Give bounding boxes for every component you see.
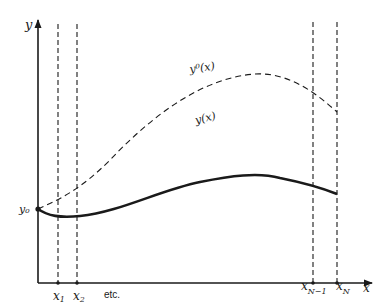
- grid-label-x1: x1: [53, 289, 65, 304]
- grid-label-x2: x2: [73, 289, 85, 304]
- grid-point-xN-1: [311, 281, 315, 285]
- curve-exact: [38, 175, 337, 217]
- grid-point-x2: [75, 281, 79, 285]
- svg-text:x2: x2: [73, 289, 85, 304]
- x-axis-label: x: [363, 281, 370, 295]
- curve-initial-guess-label: y⁰(x): [188, 60, 216, 77]
- grid-point-x1: [56, 281, 60, 285]
- diagram-canvas: y x y₀ y⁰(x) y(x) x1 x2 etc. xN−1 xN: [0, 0, 391, 308]
- initial-value-label: y₀: [18, 203, 30, 216]
- svg-text:xN: xN: [336, 279, 351, 296]
- grid-label-xN: xN: [336, 279, 351, 296]
- y-axis-label: y: [24, 17, 33, 32]
- initial-value-point: [35, 206, 40, 211]
- curve-exact-label: y(x): [193, 109, 218, 127]
- svg-text:x1: x1: [53, 289, 65, 304]
- etc-label: etc.: [104, 289, 120, 300]
- curve-initial-guess: [38, 74, 337, 209]
